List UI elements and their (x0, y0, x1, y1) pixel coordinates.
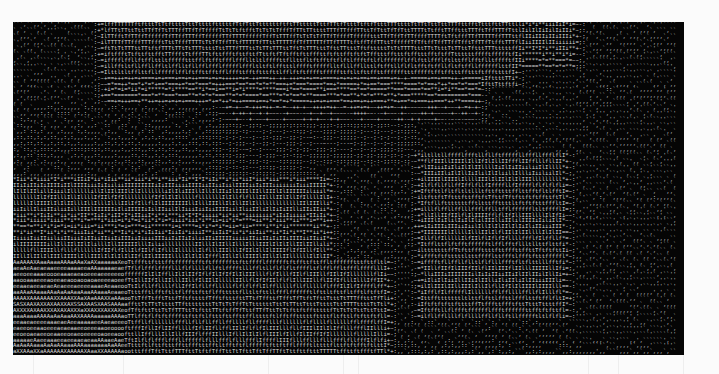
grid-line (123, 355, 124, 374)
ascii-art-frame: ```,``,,',`','`''`,,,'``:+=lffTTTTTTftft… (13, 22, 684, 355)
faint-grid-lines (13, 355, 684, 374)
grid-line (618, 355, 619, 374)
ascii-art-image: ```,``,,',`','`''`,,,'``:+=lffTTTTTTftft… (13, 22, 684, 355)
grid-line (683, 355, 684, 374)
grid-line (358, 355, 359, 374)
grid-line (588, 355, 589, 374)
grid-line (33, 355, 34, 374)
grid-line (343, 355, 344, 374)
grid-line (268, 355, 269, 374)
